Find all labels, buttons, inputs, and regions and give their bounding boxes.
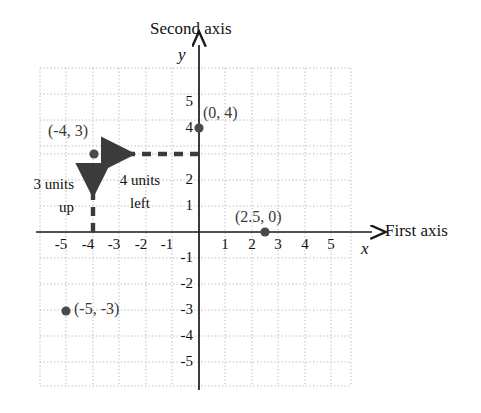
x-tick-2: 2 bbox=[239, 237, 265, 252]
point-2p5-0 bbox=[260, 227, 269, 236]
y-tick-neg5: -5 bbox=[169, 354, 193, 369]
y-tick-neg1: -1 bbox=[169, 250, 193, 265]
y-tick-neg2: -2 bbox=[169, 276, 193, 291]
point-label-2p5-0: (2.5, 0) bbox=[235, 209, 282, 225]
x-tick-4: 4 bbox=[292, 237, 318, 252]
coordinate-plane-figure: Second axis y First axis x -5 -4 -3 -2 -… bbox=[0, 0, 481, 413]
annotation-4-units: 4 units bbox=[105, 172, 175, 188]
x-tick-neg2: -2 bbox=[128, 237, 154, 252]
annotation-left: left bbox=[105, 195, 175, 211]
y-tick-5: 5 bbox=[171, 94, 193, 109]
point-label-neg5-neg3: (-5, -3) bbox=[74, 301, 119, 317]
y-tick-4: 4 bbox=[171, 120, 193, 135]
point-0-4 bbox=[194, 123, 203, 132]
point-neg4-3 bbox=[89, 149, 98, 158]
y-tick-neg3: -3 bbox=[169, 302, 193, 317]
annotation-3-units: 3 units bbox=[8, 176, 74, 192]
x-tick-neg4: -4 bbox=[75, 237, 101, 252]
x-tick-5: 5 bbox=[318, 237, 344, 252]
point-label-neg4-3: (-4, 3) bbox=[48, 123, 88, 139]
x-tick-1: 1 bbox=[212, 237, 238, 252]
point-neg5-neg3 bbox=[61, 306, 70, 315]
x-tick-neg3: -3 bbox=[101, 237, 127, 252]
grid-vertical-lines bbox=[40, 68, 351, 386]
x-variable-label: x bbox=[361, 240, 369, 257]
y-tick-neg4: -4 bbox=[169, 328, 193, 343]
second-axis-label: Second axis bbox=[150, 20, 232, 37]
point-label-0-4: (0, 4) bbox=[203, 105, 238, 121]
y-variable-label: y bbox=[178, 46, 186, 63]
x-tick-3: 3 bbox=[265, 237, 291, 252]
first-axis-label: First axis bbox=[385, 222, 448, 239]
x-tick-neg5: -5 bbox=[48, 237, 74, 252]
grid-horizontal-lines bbox=[40, 68, 351, 386]
annotation-up: up bbox=[8, 199, 74, 215]
